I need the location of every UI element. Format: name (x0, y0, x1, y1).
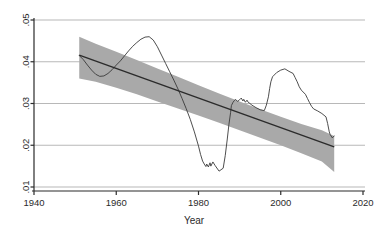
y-tick-label-3: .04 (20, 55, 31, 68)
y-tick-label-4: .05 (20, 13, 31, 26)
x-tick-label-4: 2020 (352, 197, 373, 208)
x-axis-title: Year (184, 215, 205, 226)
x-tick-label-0: 1940 (23, 197, 44, 208)
chart-figure: 19401960198020002020 .01.02.03.04.05 Yea… (0, 0, 377, 235)
x-tick-label-1: 1960 (106, 197, 127, 208)
chart-plot-area: 19401960198020002020 .01.02.03.04.05 Yea… (0, 0, 377, 235)
y-tick-label-1: .02 (20, 139, 31, 152)
x-tick-label-3: 2000 (270, 197, 291, 208)
y-tick-label-2: .03 (20, 97, 31, 110)
x-tick-label-2: 1980 (188, 197, 209, 208)
y-tick-label-0: .01 (20, 180, 31, 193)
